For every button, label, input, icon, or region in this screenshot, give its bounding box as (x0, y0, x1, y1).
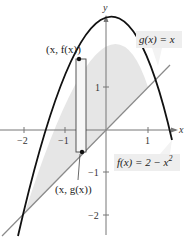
y-tick-label-1: 1 (95, 82, 100, 93)
bottom-point (80, 150, 84, 154)
y-tick-label-neg1: −1 (88, 167, 99, 178)
representative-rectangle (76, 59, 86, 152)
x-axis-arrow-icon (171, 128, 178, 133)
f-curve-label-main: f(x) = 2 − x (117, 156, 169, 169)
bottom-point-label: (x, g(x)) (55, 183, 92, 196)
x-tick-label-neg1: −1 (58, 135, 69, 146)
f-curve-label: f(x) = 2 − x2 (117, 154, 173, 169)
top-point (77, 57, 81, 61)
f-curve-label-sup: 2 (169, 154, 173, 163)
x-axis-label: x (178, 124, 184, 135)
y-tick-label-neg2: −2 (88, 210, 99, 221)
top-point-label: (x, f(x)) (46, 43, 81, 56)
g-label-pointer (152, 48, 162, 66)
x-tick-label-1: 1 (145, 135, 150, 146)
f-label-pointer (160, 140, 172, 154)
y-axis-label: y (102, 2, 108, 13)
x-tick-label-neg2: −2 (17, 135, 28, 146)
area-between-curves-diagram: x y −2 −1 1 1 −1 −2 (x, f(x)) (x, g(x)) … (0, 0, 184, 243)
g-curve-label: g(x) = x (139, 33, 175, 46)
